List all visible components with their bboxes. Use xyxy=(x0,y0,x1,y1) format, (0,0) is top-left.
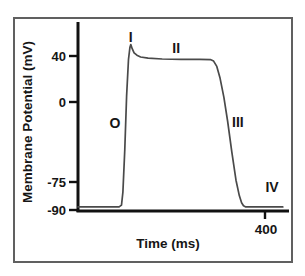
phase-label-4: IV xyxy=(265,179,279,195)
y-tick-label-neg90: -90 xyxy=(47,203,66,218)
y-tick-label-neg75: -75 xyxy=(47,175,66,190)
x-tick-label-400: 400 xyxy=(255,222,278,237)
phase-label-3: III xyxy=(232,114,244,130)
phase-label-0: O xyxy=(109,115,120,131)
phase-label-2: II xyxy=(172,40,180,56)
action-potential-chart: 40 0 -75 -90 400 Time (ms) Membrane Pote… xyxy=(0,0,305,276)
y-tick-label-0: 0 xyxy=(59,95,66,110)
figure-canvas: 40 0 -75 -90 400 Time (ms) Membrane Pote… xyxy=(0,0,305,276)
y-tick-label-40: 40 xyxy=(52,49,66,64)
y-axis-title: Membrane Potential (mV) xyxy=(20,41,35,203)
x-axis-title: Time (ms) xyxy=(136,236,200,251)
phase-label-1: I xyxy=(129,29,133,45)
